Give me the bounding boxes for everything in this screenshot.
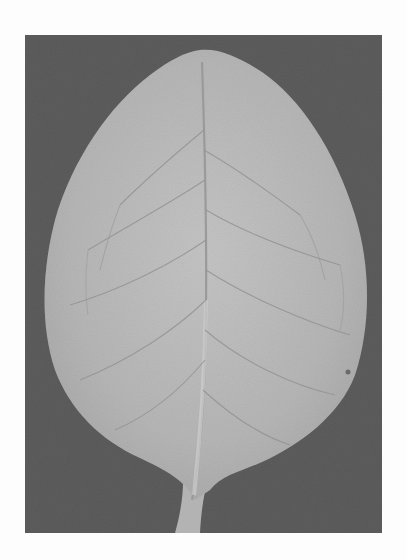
leaf-spot xyxy=(346,370,351,375)
leaf-photograph xyxy=(0,0,407,560)
